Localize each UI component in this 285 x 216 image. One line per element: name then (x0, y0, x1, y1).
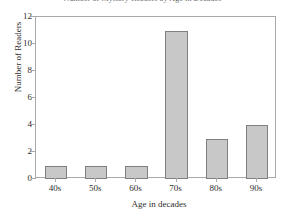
x-tick-mark (55, 178, 56, 182)
chart-title: Number of Mystery Readers by Age in Deca… (0, 0, 285, 3)
x-tick-mark (135, 178, 136, 182)
x-tick-label: 80s (209, 183, 222, 193)
bar-chart: Number of Mystery Readers by Age in Deca… (0, 0, 285, 216)
bar-60s (125, 166, 147, 180)
x-tick-label: 50s (89, 183, 102, 193)
bar-90s (246, 125, 268, 179)
x-tick-mark (256, 178, 257, 182)
plot-area (35, 16, 276, 178)
bar-70s (165, 31, 187, 180)
y-axis-title: Number of Readers (13, 0, 23, 127)
x-tick-mark (176, 178, 177, 182)
x-tick-mark (95, 178, 96, 182)
x-tick-mark (216, 178, 217, 182)
y-tick-label: 2 (0, 146, 32, 156)
x-tick-label: 90s (250, 183, 263, 193)
x-tick-label: 60s (129, 183, 142, 193)
x-axis-title: Age in decades (35, 199, 283, 209)
bar-80s (206, 139, 228, 180)
x-tick-label: 70s (169, 183, 182, 193)
bar-40s (45, 166, 67, 180)
y-tick-mark (31, 178, 36, 179)
y-tick-label: 0 (0, 173, 32, 183)
x-tick-label: 40s (49, 183, 62, 193)
bar-50s (85, 166, 107, 180)
